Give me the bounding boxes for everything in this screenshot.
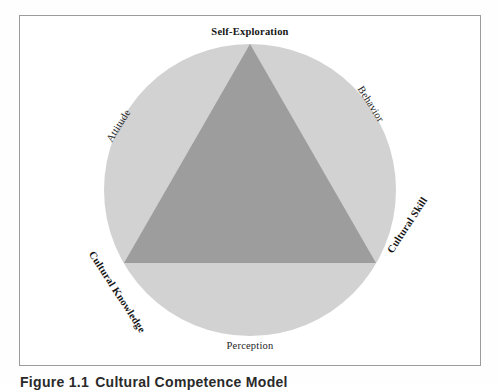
figure-caption: Figure 1.1Cultural Competence Model xyxy=(20,374,288,390)
vertex-label-self-exploration: Self-Exploration xyxy=(211,26,288,37)
vertex-label-cultural-skill: Cultural Skill xyxy=(385,195,429,255)
vertex-label-cultural-knowledge: Cultural Knowledge xyxy=(87,249,148,335)
arc-label-attitude: Attitude xyxy=(104,107,132,143)
arc-label-behavior: Behavior xyxy=(356,84,387,124)
arc-label-perception: Perception xyxy=(227,340,274,351)
figure-caption-title: Cultural Competence Model xyxy=(95,374,288,390)
figure-caption-number: Figure 1.1 xyxy=(20,374,89,390)
figure-frame: Self-Exploration Cultural Knowledge Cult… xyxy=(19,15,481,366)
